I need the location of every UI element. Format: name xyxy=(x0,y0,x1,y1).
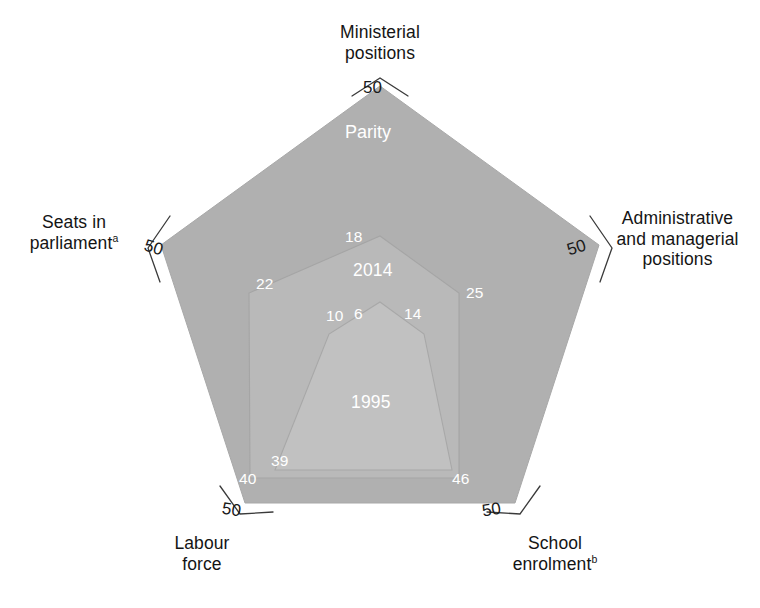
value-label-2014-school: 46 xyxy=(452,470,470,488)
axis-title-labour-force: Labour force xyxy=(142,533,262,574)
value-label-2014-seats: 22 xyxy=(256,275,274,293)
axis-title-line-2: positions xyxy=(300,43,460,64)
tick-label-top: 50 xyxy=(363,78,382,98)
axis-title-line-3: positions xyxy=(600,249,755,270)
series-label-2014: 2014 xyxy=(353,260,393,281)
axis-title-seats-in-parliament: Seats in parliamenta xyxy=(10,212,138,253)
value-label-1995-labour: 39 xyxy=(271,452,289,470)
axis-title-ministerial-positions: Ministerial positions xyxy=(300,22,460,63)
tick-label-bottom-left: 50 xyxy=(221,499,243,522)
axis-title-administrative-positions: Administrative and managerial positions xyxy=(600,208,755,270)
value-label-1995-administrative: 14 xyxy=(404,305,422,323)
series-label-parity: Parity xyxy=(345,122,391,143)
axis-title-line-1: School xyxy=(490,533,620,554)
axis-title-line-1: Administrative xyxy=(600,208,755,229)
axis-title-line-1: Labour xyxy=(142,533,262,554)
axis-title-line-2: parliamenta xyxy=(10,233,138,254)
value-label-2014-ministerial: 18 xyxy=(345,228,363,246)
axis-title-line-1: Ministerial xyxy=(300,22,460,43)
axis-title-line-2: force xyxy=(142,554,262,575)
axis-title-line-2-text: parliament xyxy=(30,233,113,253)
footnote-marker-a: a xyxy=(112,232,118,244)
axis-title-school-enrolment: School enrolmentb xyxy=(490,533,620,574)
axis-title-line-2-text: enrolment xyxy=(513,554,592,574)
value-label-2014-administrative: 25 xyxy=(466,284,484,302)
tick-label-bottom-right: 50 xyxy=(481,499,503,522)
axis-title-line-2: enrolmentb xyxy=(490,554,620,575)
radar-chart: 50 50 50 50 50 Ministerial positions Adm… xyxy=(0,0,760,608)
axis-title-line-2: and managerial xyxy=(600,229,755,250)
axis-title-line-1: Seats in xyxy=(10,212,138,233)
series-label-1995: 1995 xyxy=(351,392,391,413)
value-label-2014-labour: 40 xyxy=(239,470,257,488)
footnote-marker-b: b xyxy=(591,553,597,565)
value-label-1995-seats: 10 xyxy=(326,307,344,325)
value-label-1995-ministerial: 6 xyxy=(354,305,363,323)
